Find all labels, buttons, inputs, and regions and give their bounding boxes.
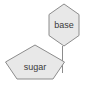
node-shape-sugar[interactable] xyxy=(6,45,65,79)
diagram-svg: sugar base xyxy=(0,0,87,90)
diagram-canvas: sugar base xyxy=(0,0,87,90)
node-shape-base[interactable] xyxy=(49,4,79,46)
